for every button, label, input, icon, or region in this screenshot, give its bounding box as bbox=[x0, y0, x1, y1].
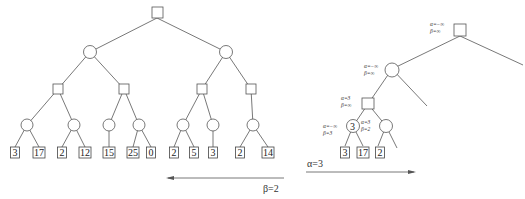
max-node-root bbox=[152, 7, 163, 18]
leaf-value: 0 bbox=[149, 147, 154, 158]
edge bbox=[58, 52, 90, 89]
leaf-value: 2 bbox=[378, 147, 383, 158]
level2-alpha: α=3 bbox=[341, 95, 351, 101]
max-node bbox=[53, 84, 63, 94]
min-node bbox=[177, 119, 189, 131]
beta-arrow-label: β=2 bbox=[263, 183, 279, 194]
leaf-value: 3 bbox=[211, 147, 216, 158]
leaf-value: 5 bbox=[192, 147, 197, 158]
leaf-value: 3 bbox=[13, 147, 18, 158]
arrow-head-right-icon bbox=[408, 170, 416, 174]
leaf-value: 17 bbox=[34, 147, 44, 158]
level1-alpha: α=−∞ bbox=[364, 63, 378, 69]
root-beta: β=∞ bbox=[429, 28, 440, 34]
edge bbox=[460, 36, 523, 65]
leaf-value: 15 bbox=[104, 147, 114, 158]
leaf-value: 14 bbox=[263, 147, 273, 158]
min-node-value: 3 bbox=[350, 121, 355, 132]
min-node bbox=[84, 46, 97, 59]
min-node bbox=[247, 119, 259, 131]
level3-right-alpha: α=3 bbox=[361, 119, 371, 125]
left-tree: 31721215250253214 β=2 bbox=[11, 7, 285, 194]
level2-beta: β=∞ bbox=[340, 102, 351, 108]
min-node bbox=[103, 119, 115, 131]
max-node bbox=[119, 84, 129, 94]
right-tree: 3 α=−∞ β=∞ α=−∞ β=∞ α=3 β=∞ α=−∞ β=3 α=3… bbox=[306, 21, 523, 174]
level3-left-beta: β=3 bbox=[322, 130, 332, 136]
min-node bbox=[220, 46, 233, 59]
level3-right-beta: β=2 bbox=[360, 126, 370, 132]
leaf-value: 2 bbox=[60, 147, 65, 158]
game-tree-diagram: 31721215250253214 β=2 3 α=−∞ β=∞ α=−∞ β=… bbox=[0, 0, 525, 199]
max-node bbox=[246, 84, 256, 94]
level3-left-alpha: α=−∞ bbox=[323, 123, 337, 129]
leaf-value: 3 bbox=[343, 147, 348, 158]
max-node-root bbox=[454, 24, 466, 36]
min-node bbox=[68, 119, 80, 131]
edge bbox=[157, 18, 226, 52]
left-leaves: 31721215250253214 bbox=[11, 147, 275, 158]
min-node bbox=[21, 119, 33, 131]
alpha-arrow-label: α=3 bbox=[307, 158, 323, 169]
edge bbox=[90, 18, 157, 52]
right-leaves: 3172 bbox=[341, 147, 385, 158]
level1-beta: β=∞ bbox=[363, 70, 374, 76]
edge bbox=[27, 89, 58, 125]
min-node bbox=[207, 119, 219, 131]
edge bbox=[392, 36, 460, 69]
min-node bbox=[385, 63, 399, 77]
leaf-value: 12 bbox=[80, 147, 90, 158]
arrow-head-left-icon bbox=[166, 176, 174, 180]
leaf-value: 17 bbox=[358, 147, 368, 158]
root-alpha: α=−∞ bbox=[430, 21, 444, 27]
edge bbox=[90, 52, 124, 89]
max-node bbox=[362, 98, 374, 109]
max-node bbox=[197, 84, 207, 94]
leaf-value: 2 bbox=[238, 147, 243, 158]
min-node bbox=[380, 120, 393, 133]
min-node bbox=[133, 119, 145, 131]
leaf-value: 25 bbox=[128, 147, 138, 158]
leaf-value: 2 bbox=[172, 147, 177, 158]
